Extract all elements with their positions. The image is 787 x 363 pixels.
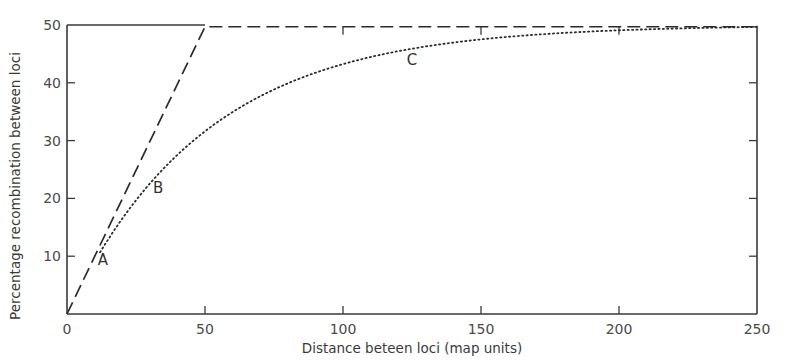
dotted-curve-series xyxy=(100,27,757,252)
dashed-line-series xyxy=(67,27,757,314)
curve-label-c: C xyxy=(407,51,417,69)
curve-label-b: B xyxy=(153,179,163,197)
x-tick-label: 50 xyxy=(196,321,214,337)
recombination-chart: 0501001502002501020304050 ABC Distance b… xyxy=(0,0,787,363)
annotation-layer: ABC xyxy=(98,51,417,268)
y-axis-label: Percentage recombination between loci xyxy=(7,52,23,320)
x-tick-label: 200 xyxy=(606,321,633,337)
series-layer xyxy=(67,27,757,314)
x-tick-label: 100 xyxy=(330,321,357,337)
curve-label-a: A xyxy=(98,251,109,269)
x-axis-label: Distance beteen loci (map units) xyxy=(302,340,522,356)
y-tick-label: 10 xyxy=(43,248,61,264)
x-tick-label: 250 xyxy=(744,321,771,337)
y-tick-label: 40 xyxy=(43,75,61,91)
x-tick-label: 0 xyxy=(63,321,72,337)
y-tick-label: 30 xyxy=(43,133,61,149)
y-tick-label: 50 xyxy=(43,17,61,33)
y-tick-label: 20 xyxy=(43,190,61,206)
x-tick-label: 150 xyxy=(468,321,495,337)
